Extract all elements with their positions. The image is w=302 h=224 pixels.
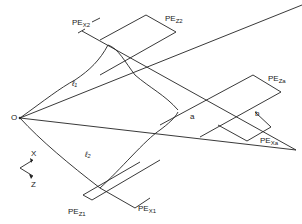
pe-x1-label: PEX1	[138, 205, 156, 214]
wavy-upper-path	[20, 45, 178, 118]
ell1-label: ℓ₁	[72, 80, 77, 88]
wavy-lower-path	[20, 112, 178, 188]
pe-x2-label: PEX2	[72, 19, 90, 28]
origin-dot	[19, 117, 22, 120]
pe-z1-label: PEZ1	[68, 208, 86, 217]
point-b-label: b	[255, 110, 259, 118]
pe-z2-label: PEZ2	[165, 15, 183, 24]
point-a-label: a	[190, 113, 194, 121]
pe-z2-line	[100, 15, 146, 40]
axis-z-label: Z	[31, 181, 36, 189]
pe-z2-bracket	[100, 15, 176, 75]
pe-xa-label: PEXa	[260, 137, 278, 146]
pe-za-label: PEZa	[268, 75, 286, 84]
pe-x2-line	[82, 31, 296, 150]
pe-x2-arrow	[92, 18, 100, 22]
line-ell2	[20, 118, 296, 150]
x-axis-arrowhead	[30, 158, 33, 163]
line-ell1	[20, 5, 302, 118]
origin-label: O	[11, 114, 17, 122]
ell2-label: ℓ₂	[85, 151, 91, 159]
axis-x-label: X	[31, 150, 36, 158]
pe-z1-bracket	[83, 160, 160, 200]
